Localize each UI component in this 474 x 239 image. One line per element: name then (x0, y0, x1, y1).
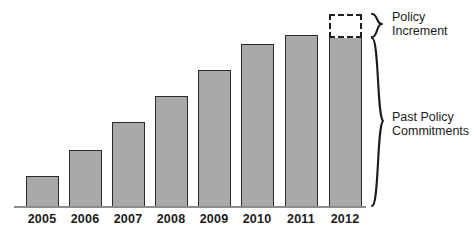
x-tick-2006: 2006 (63, 212, 107, 226)
bar-2012 (329, 37, 362, 207)
bar-2008 (155, 96, 188, 207)
x-tick-2008: 2008 (149, 212, 193, 226)
bar-2011 (285, 35, 318, 207)
x-tick-2011: 2011 (279, 212, 323, 226)
bar-2007 (112, 122, 145, 207)
bar-2009 (198, 70, 231, 207)
bar-chart: 2005 2006 2007 2008 2009 2010 2011 2012 … (0, 0, 474, 239)
annotation-policy-increment: Policy Increment (392, 10, 448, 38)
bar-2012-policy-increment (329, 14, 362, 38)
bar-2005 (26, 176, 59, 207)
x-tick-2005: 2005 (20, 212, 64, 226)
x-tick-2009: 2009 (192, 212, 236, 226)
x-tick-2007: 2007 (106, 212, 150, 226)
bar-2006 (69, 150, 102, 207)
x-axis-line (14, 206, 366, 208)
annotation-past-policy-commitments: Past Policy Commitments (392, 110, 469, 138)
x-tick-2010: 2010 (235, 212, 279, 226)
x-tick-2012: 2012 (323, 212, 367, 226)
bar-2010 (241, 44, 274, 207)
